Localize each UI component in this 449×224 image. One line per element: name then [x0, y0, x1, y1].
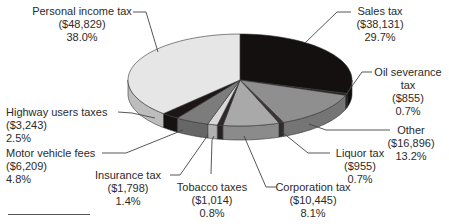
label-name: Sales tax	[345, 5, 415, 18]
label-percent: 0.7%	[370, 105, 446, 118]
label-value: ($10,445)	[275, 194, 351, 207]
label-sales-tax: Sales tax ($38,131) 29.7%	[345, 5, 415, 44]
label-percent: 2.5%	[6, 132, 118, 145]
pie-side-liquor-tax	[279, 122, 284, 137]
leader-insurance	[170, 135, 208, 175]
label-percent: 29.7%	[345, 31, 415, 44]
label-name: Other	[380, 124, 442, 137]
label-name: Highway users taxes	[6, 106, 118, 119]
label-oil-severance-tax: Oil severance tax ($855) 0.7%	[370, 66, 446, 118]
label-percent: 4.8%	[6, 173, 104, 186]
label-corporation-tax: Corporation tax ($10,445) 8.1%	[275, 181, 351, 220]
label-highway-users-taxes: Highway users taxes ($3,243) 2.5%	[6, 106, 118, 145]
label-name: Liquor tax	[330, 147, 390, 160]
label-name: Personal income tax	[30, 5, 134, 18]
label-percent: 0.8%	[173, 207, 251, 220]
leader-tobacco	[211, 136, 214, 174]
label-value: ($38,131)	[345, 18, 415, 31]
label-motor-vehicle-fees: Motor vehicle fees ($6,209) 4.8%	[6, 147, 104, 186]
leader-personal	[133, 12, 158, 52]
label-percent: 38.0%	[30, 31, 134, 44]
label-percent: 1.4%	[88, 195, 168, 208]
label-tobacco-taxes: Tobacco taxes ($1,014) 0.8%	[173, 181, 251, 220]
pie-top	[128, 34, 352, 126]
label-personal-income-tax: Personal income tax ($48,829) 38.0%	[30, 5, 134, 44]
label-value: ($3,243)	[6, 119, 118, 132]
label-name-line2: tax	[370, 79, 446, 92]
footnote-rule	[8, 214, 90, 215]
pie-side-tobacco-taxes	[217, 125, 223, 139]
pie-side-insurance-tax	[208, 124, 218, 139]
label-name-line1: Oil severance	[370, 66, 446, 79]
leader-corporation	[244, 136, 276, 187]
label-value: ($855)	[370, 92, 446, 105]
label-value: ($1,014)	[173, 194, 251, 207]
label-name: Motor vehicle fees	[6, 147, 104, 160]
label-percent: 8.1%	[275, 207, 351, 220]
label-name: Corporation tax	[275, 181, 351, 194]
label-value: ($48,829)	[30, 18, 134, 31]
label-value: ($6,209)	[6, 160, 104, 173]
label-name: Tobacco taxes	[173, 181, 251, 194]
label-value: ($955)	[330, 160, 390, 173]
